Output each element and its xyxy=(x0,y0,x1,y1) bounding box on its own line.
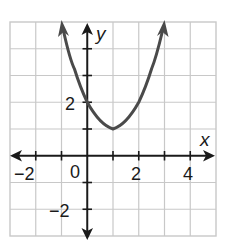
y-axis-label: y xyxy=(94,23,107,44)
x-axis xyxy=(10,150,215,162)
origin-label: 0 xyxy=(70,162,80,182)
x-tick-label-2: 2 xyxy=(131,164,141,184)
x-tick-label-neg2: −2 xyxy=(14,164,35,184)
x-axis-label: x xyxy=(199,129,211,150)
x-tick-label-4: 4 xyxy=(183,164,193,184)
y-axis xyxy=(82,23,94,240)
y-tick-label-neg2: −2 xyxy=(49,201,70,221)
y-tick-label-2: 2 xyxy=(65,94,75,114)
parabola-graph: y x −2 0 2 4 2 −2 xyxy=(0,0,231,248)
